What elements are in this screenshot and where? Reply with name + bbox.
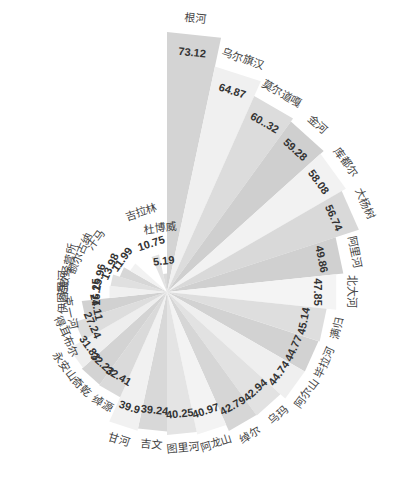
category-label: 根河 (184, 10, 207, 26)
category-label: 金河 (305, 112, 331, 137)
value-label: 10.75 (136, 233, 166, 253)
category-label: 阿里河 (345, 235, 365, 270)
category-label: 阿龙山 (198, 432, 233, 455)
category-label: 库都尔 (331, 145, 361, 179)
category-label: 吉文 (139, 436, 162, 452)
category-label: 绰尔 (237, 424, 263, 446)
category-label: 绰源 (90, 391, 116, 414)
category-label: 北大河 (345, 276, 359, 309)
category-label: 满归 (328, 316, 346, 340)
category-label: 乌尔旗汉 (220, 45, 266, 72)
category-label: 吉拉林 (123, 200, 159, 224)
category-label: 甘河 (107, 430, 132, 449)
category-label: 毕拉河 (311, 344, 337, 380)
category-label: 乌玛 (265, 403, 291, 428)
category-label: 图里河 (166, 440, 200, 456)
value-label: 5.19 (152, 254, 175, 268)
value-label: 47.85 (312, 278, 324, 306)
polar-bar-chart: 73.1264.8760..3259.2858.0856.7449.8647.8… (0, 0, 414, 493)
category-label: 大杨树 (352, 186, 378, 222)
